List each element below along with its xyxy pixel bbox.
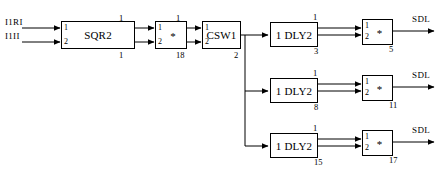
signal-dly2c-out-top: 1 [313, 124, 317, 133]
block-sqr2-label: SQR2 [84, 29, 112, 41]
output-label-sdl-2: SDL [412, 70, 430, 80]
block-diagram-canvas: I1RI I1II SQR2 1 2 1 1 * 1 2 1 18 CSW1 1… [0, 0, 443, 174]
signal-mul2-out-bottom: 5 [389, 45, 393, 54]
signal-mul4-out-bottom: 17 [389, 156, 398, 165]
block-multiplier-4-port-2: 2 [365, 144, 369, 152]
block-sqr2-port-2: 2 [64, 38, 68, 46]
block-multiplier-3-port-1: 1 [365, 78, 369, 86]
signal-mul1-out-top: 1 [176, 14, 180, 23]
signal-dly2b-out-top: 1 [313, 69, 317, 78]
signal-dly2c-out-bottom: 15 [314, 158, 323, 167]
block-sqr2[interactable]: SQR2 [61, 21, 135, 49]
block-dly2-row2[interactable]: 1 DLY2 [270, 78, 318, 103]
block-multiplier-4-label: * [377, 141, 383, 147]
signal-sqr2-out-top: 1 [119, 14, 123, 23]
block-csw1-label: CSW1 [206, 29, 236, 41]
block-csw1-port-2: 2 [205, 38, 209, 46]
input-label-i1ri: I1RI [5, 17, 23, 27]
signal-dly2b-out-bottom: 8 [314, 103, 318, 112]
block-dly2-row3-label: 1 DLY2 [276, 140, 312, 152]
output-label-sdl-1: SDL [412, 14, 430, 24]
block-dly2-row3[interactable]: 1 DLY2 [270, 133, 318, 158]
signal-mul3-out-bottom: 11 [389, 101, 397, 110]
block-multiplier-2-port-2: 2 [365, 33, 369, 41]
input-label-i1ii: I1II [5, 31, 20, 41]
block-multiplier-2-label: * [377, 30, 383, 36]
block-sqr2-port-1: 1 [64, 24, 68, 32]
block-multiplier-1-port-2: 2 [158, 38, 162, 46]
block-multiplier-1-label: * [170, 33, 176, 39]
block-multiplier-4-port-1: 1 [365, 133, 369, 141]
block-multiplier-3-label: * [377, 86, 383, 92]
block-dly2-row1-label: 1 DLY2 [276, 29, 312, 41]
signal-mul1-out-bottom: 18 [176, 51, 185, 60]
block-multiplier-2-port-1: 1 [365, 22, 369, 30]
signal-csw1-out-bottom: 2 [234, 51, 238, 60]
block-multiplier-3-port-2: 2 [365, 89, 369, 97]
block-multiplier-1-port-1: 1 [158, 24, 162, 32]
signal-dly2a-out-bottom: 3 [314, 47, 318, 56]
block-csw1-port-1: 1 [205, 24, 209, 32]
signal-dly2a-out-top: 1 [313, 13, 317, 22]
output-label-sdl-3: SDL [412, 125, 430, 135]
block-dly2-row2-label: 1 DLY2 [276, 85, 312, 97]
block-dly2-row1[interactable]: 1 DLY2 [270, 22, 318, 47]
signal-sqr2-out-bottom: 1 [119, 51, 123, 60]
